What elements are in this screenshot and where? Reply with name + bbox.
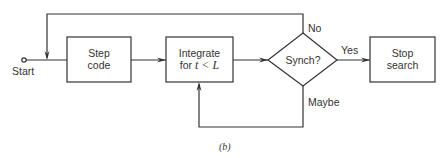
integrate-condition-math: t < L bbox=[195, 58, 219, 72]
step-code-line1: Step bbox=[67, 47, 131, 59]
edge-label-no: No bbox=[308, 22, 321, 34]
flowchart-canvas bbox=[0, 0, 448, 158]
start-terminal bbox=[22, 58, 26, 62]
edge-label-yes: Yes bbox=[341, 44, 358, 56]
stop-search-line2: search bbox=[370, 59, 435, 71]
step-code-line2: code bbox=[67, 59, 131, 71]
stop-search-line1: Stop bbox=[370, 47, 435, 59]
integrate-text: Integrate for t < L bbox=[166, 47, 233, 71]
start-label: Start bbox=[12, 65, 34, 77]
stop-search-text: Stop search bbox=[370, 47, 435, 71]
edge-maybe-loop bbox=[199, 84, 303, 127]
edge-label-maybe: Maybe bbox=[308, 96, 340, 108]
integrate-line2: for t < L bbox=[166, 59, 233, 71]
step-code-text: Step code bbox=[67, 47, 131, 71]
integrate-line2-prefix: for bbox=[180, 59, 195, 71]
synch-text: Synch? bbox=[268, 54, 338, 66]
figure-caption: (b) bbox=[219, 141, 231, 152]
